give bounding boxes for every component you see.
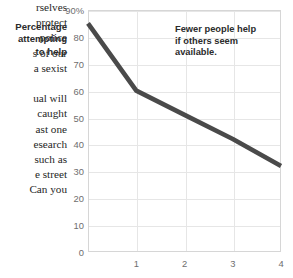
x-axis-tick-label: 2 xyxy=(173,258,197,269)
y-axis-tick-label: 90% xyxy=(48,5,84,16)
y-axis-tick-labels: 0102030405060708090% xyxy=(48,10,84,252)
annotation-line: Fewer people help xyxy=(175,24,256,34)
y-axis-tick-label: 80 xyxy=(48,31,84,42)
y-axis-tick-label: 40 xyxy=(48,139,84,150)
y-axis-tick-label: 20 xyxy=(48,193,84,204)
y-axis-tick-label: 30 xyxy=(48,166,84,177)
y-axis-tick-label: 60 xyxy=(48,85,84,96)
y-axis-tick-label: 70 xyxy=(48,58,84,69)
y-axis-tick-label: 0 xyxy=(48,247,84,258)
annotation-line: if others seem xyxy=(175,36,238,46)
annotation-line: available. xyxy=(175,47,217,57)
x-axis-tick-label: 1 xyxy=(124,258,148,269)
y-axis-tick-label: 50 xyxy=(48,112,84,123)
x-axis-tick-label: 4 xyxy=(269,258,293,269)
figure-container: rselves protect police s of our a sexist… xyxy=(0,0,293,278)
x-axis-tick-label: 3 xyxy=(221,258,245,269)
y-axis-tick-label: 10 xyxy=(48,220,84,231)
chart-annotation: Fewer people help if others seem availab… xyxy=(175,24,280,59)
x-axis-tick-labels: 1234 xyxy=(88,258,281,272)
